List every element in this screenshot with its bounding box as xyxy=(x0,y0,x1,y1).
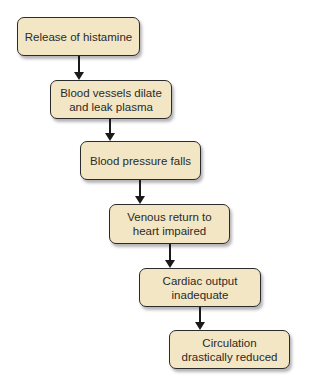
node-cardiac-output-inadequate: Cardiac output inadequate xyxy=(139,268,261,307)
arrow-head-icon xyxy=(135,196,145,204)
node-venous-return-impaired: Venous return to heart impaired xyxy=(109,204,230,244)
arrow-head-icon xyxy=(195,322,205,330)
node-label: Release of histamine xyxy=(25,30,132,44)
node-label: Cardiac output inadequate xyxy=(163,274,238,302)
node-circulation-reduced: Circulation drastically reduced xyxy=(169,330,290,369)
node-label: Blood pressure falls xyxy=(90,154,191,168)
node-label: Venous return to heart impaired xyxy=(127,210,211,238)
node-label: Circulation drastically reduced xyxy=(182,336,278,364)
node-blood-pressure-falls: Blood pressure falls xyxy=(80,141,201,180)
node-release-of-histamine: Release of histamine xyxy=(17,17,140,56)
node-label: Blood vessels dilate and leak plasma xyxy=(60,86,162,114)
flowchart-canvas: Release of histamine Blood vessels dilat… xyxy=(0,0,309,390)
arrow-head-icon xyxy=(105,133,115,141)
node-blood-vessels-dilate: Blood vessels dilate and leak plasma xyxy=(50,80,172,119)
arrow-head-icon xyxy=(165,260,175,268)
arrow-shaft xyxy=(78,56,80,73)
arrow-head-icon xyxy=(74,72,84,80)
